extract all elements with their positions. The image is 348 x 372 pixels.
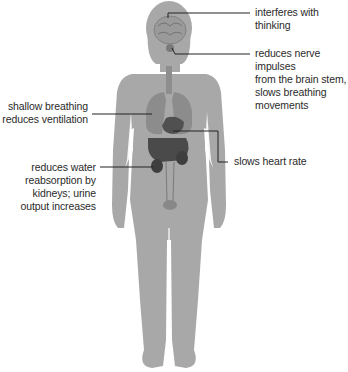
bladder-icon <box>163 200 177 210</box>
label-brain: interferes with thinking <box>255 6 348 32</box>
label-brainstem: reduces nerve impulses from the brain st… <box>255 47 348 112</box>
label-kidneys: reduces water reabsorption by kidneys; u… <box>21 161 96 213</box>
label-lungs: shallow breathing reduces ventilation <box>2 100 88 126</box>
diagram-stage: interferes with thinking reduces nerve i… <box>0 0 348 372</box>
label-heart: slows heart rate <box>234 155 307 168</box>
